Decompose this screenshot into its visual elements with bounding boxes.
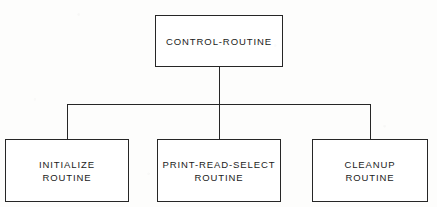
connector-drop-left (67, 104, 69, 139)
node-cleanup-routine[interactable]: CLEANUP ROUTINE (312, 139, 428, 202)
node-initialize-routine[interactable]: INITIALIZE ROUTINE (5, 139, 129, 202)
connector-bus-bar (67, 104, 371, 106)
node-print-read-select-routine[interactable]: PRINT-READ-SELECT ROUTINE (157, 139, 281, 202)
node-control-routine[interactable]: CONTROL-ROUTINE (155, 15, 283, 67)
node-cleanup-routine-label-line-1: CLEANUP (344, 158, 395, 171)
node-initialize-routine-label-line-2: ROUTINE (42, 171, 91, 184)
node-control-routine-label-line-1: CONTROL-ROUTINE (166, 35, 272, 48)
node-print-read-select-routine-label-line-1: PRINT-READ-SELECT (163, 158, 276, 171)
node-cleanup-routine-label-line-2: ROUTINE (345, 171, 394, 184)
node-print-read-select-routine-label-line-2: ROUTINE (194, 171, 243, 184)
node-initialize-routine-label-line-1: INITIALIZE (39, 158, 95, 171)
connector-drop-right (370, 104, 372, 139)
structure-chart-canvas: CONTROL-ROUTINE INITIALIZE ROUTINE PRINT… (0, 0, 437, 207)
